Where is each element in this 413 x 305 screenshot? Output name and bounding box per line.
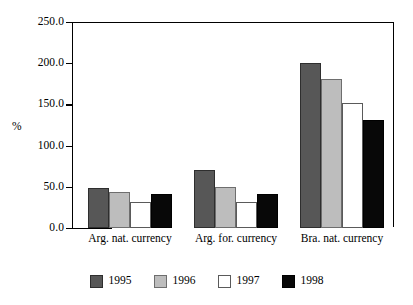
legend-item-1998[interactable]: 1998	[282, 275, 324, 288]
bar-1995-bra-nat-currency	[300, 63, 321, 228]
legend-label-1996: 1996	[173, 275, 196, 287]
legend-swatch-1995-icon	[90, 275, 103, 288]
legend-swatch-1997-icon	[218, 275, 231, 288]
bar-1996-arg-nat-currency	[109, 192, 130, 228]
bar-1996-bra-nat-currency	[321, 79, 342, 228]
bar-1996-arg-for-currency	[215, 187, 236, 228]
bar-1995-arg-nat-currency	[88, 188, 109, 228]
bar-chart-figure: 250.0 200.0 150.0 100.0 50.0 0.0 % Arg. …	[0, 0, 413, 305]
legend-item-1996[interactable]: 1996	[154, 275, 196, 288]
legend-swatch-1996-icon	[154, 275, 167, 288]
legend-swatch-1998-icon	[282, 275, 295, 288]
bar-1997-arg-nat-currency	[130, 202, 151, 228]
legend-label-1995: 1995	[109, 275, 132, 287]
category-label-bra-nat-currency: Bra. nat. currency	[270, 232, 413, 245]
legend-item-1995[interactable]: 1995	[90, 275, 132, 288]
bar-1998-bra-nat-currency	[363, 120, 384, 228]
bar-1997-bra-nat-currency	[342, 103, 363, 228]
bars-layer	[0, 0, 413, 305]
legend: 1995 1996 1997 1998	[0, 272, 413, 290]
bar-1995-arg-for-currency	[194, 170, 215, 228]
legend-item-1997[interactable]: 1997	[218, 275, 260, 288]
legend-label-1998: 1998	[301, 275, 324, 287]
legend-label-1997: 1997	[237, 275, 260, 287]
bar-1997-arg-for-currency	[236, 202, 257, 228]
bar-1998-arg-nat-currency	[151, 194, 172, 228]
bar-1998-arg-for-currency	[257, 194, 278, 228]
